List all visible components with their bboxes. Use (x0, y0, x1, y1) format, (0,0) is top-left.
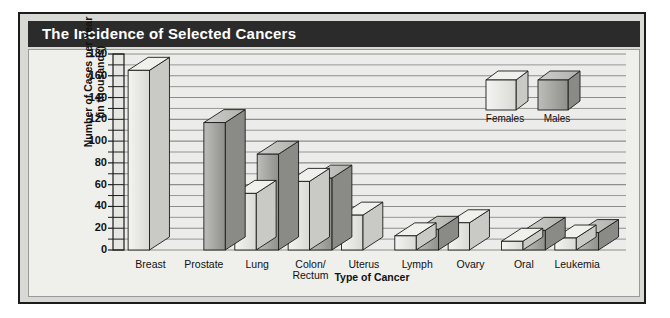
bar-female-0-front[interactable] (128, 70, 149, 250)
bar-female-7-front[interactable] (501, 241, 522, 250)
bar-male-2-side (279, 141, 299, 250)
x-tick-label: Uterus (348, 258, 379, 270)
x-tick-label: Breast (135, 258, 165, 270)
chart-figure: The Incidence of Selected Cancers Number… (18, 12, 646, 304)
bar-female-3-side (309, 168, 329, 250)
y-axis (108, 54, 124, 250)
chart-plot-area: FemalesMalesBreastProstateLungColon/Rect… (20, 14, 648, 306)
bar-male-3-side (332, 165, 352, 250)
legend-swatch-females-front (486, 80, 516, 110)
x-tick-label: Leukemia (554, 258, 600, 270)
x-tick-label: Ovary (457, 258, 486, 270)
bar-female-0-side (149, 57, 169, 250)
bar-male-1-side (225, 110, 245, 250)
x-tick-label: Oral (514, 258, 534, 270)
x-tick-label-line2: Rectum (292, 269, 328, 281)
legend-label-females: Females (486, 113, 524, 124)
bar-male-1-front[interactable] (204, 123, 225, 250)
bar-female-5-front[interactable] (395, 236, 416, 250)
legend-label-males: Males (544, 113, 571, 124)
legend-swatch-males-front (538, 80, 568, 110)
x-tick-label: Lymph (402, 258, 433, 270)
x-tick-label: Lung (246, 258, 270, 270)
x-tick-label: Prostate (184, 258, 223, 270)
x-axis-label: Type of Cancer (334, 271, 409, 283)
